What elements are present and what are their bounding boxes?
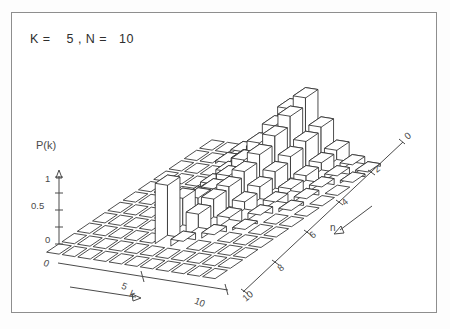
bars-layer [47,88,381,279]
n-direction-arrow-shaft [340,206,372,230]
bar-cell [294,206,319,216]
k-direction-arrowhead [132,294,141,301]
k-direction-arrow-shaft [70,287,136,297]
zero-cell-diamond [294,206,319,216]
n-direction-arrowhead [334,226,344,234]
bar-cell [325,185,350,195]
zero-cell-diamond [310,196,335,206]
bar-cell [310,196,335,206]
ntick-10 [241,289,248,294]
figure-root: K = 5 , N = 10 P(k) 1 0.5 0 0 5 10 k 0 2… [0,0,450,329]
zero-cell-diamond [325,185,350,195]
chart-canvas [0,0,450,329]
bar-cell [155,175,180,244]
